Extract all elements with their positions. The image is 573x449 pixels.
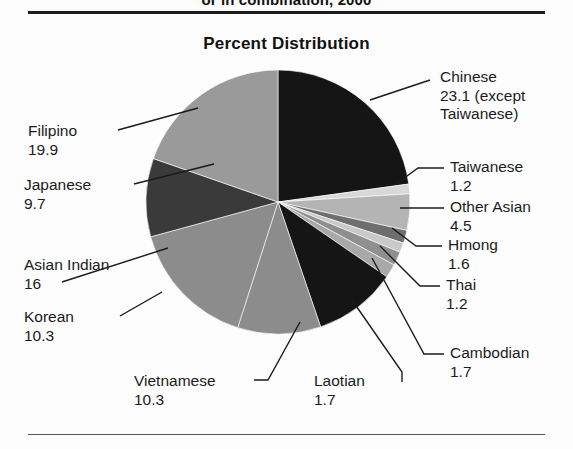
label-name-filipino: Filipino (28, 122, 77, 141)
label-value-hmong: 1.6 (448, 255, 498, 274)
label-value-laotian: 1.7 (314, 391, 365, 410)
slice-label-thai: Thai 1.2 (446, 276, 476, 313)
label-name-taiwanese: Taiwanese (450, 158, 523, 177)
pie-slice (278, 70, 409, 202)
slice-label-chinese: Chinese 23.1 (except Taiwanese) (440, 68, 525, 124)
label-name-other-asian: Other Asian (450, 198, 531, 217)
slice-label-cambodian: Cambodian 1.7 (450, 344, 529, 381)
figure-page: or in combination, 2000 Percent Distribu… (0, 0, 573, 449)
slice-label-korean: Korean 10.3 (24, 308, 74, 345)
leader-line-laotian (352, 300, 402, 382)
label-name-vietnamese: Vietnamese (134, 372, 216, 391)
label-name-japanese: Japanese (24, 176, 91, 195)
label-value-thai: 1.2 (446, 295, 476, 314)
label-value-cambodian: 1.7 (450, 363, 529, 382)
label-note-chinese: Taiwanese) (440, 105, 525, 124)
label-value-chinese: 23.1 (except (440, 87, 525, 106)
label-name-hmong: Hmong (448, 236, 498, 255)
label-value-other-asian: 4.5 (450, 217, 531, 236)
label-value-taiwanese: 1.2 (450, 177, 523, 196)
label-value-vietnamese: 10.3 (134, 391, 216, 410)
leader-line-chinese (370, 80, 430, 100)
label-value-japanese: 9.7 (24, 195, 91, 214)
label-name-cambodian: Cambodian (450, 344, 529, 363)
label-name-laotian: Laotian (314, 372, 365, 391)
slice-label-asian-indian: Asian Indian 16 (24, 256, 109, 293)
slice-label-taiwanese: Taiwanese 1.2 (450, 158, 523, 195)
bottom-divider-rule (28, 434, 545, 435)
slice-label-japanese: Japanese 9.7 (24, 176, 91, 213)
label-name-korean: Korean (24, 308, 74, 327)
label-value-filipino: 19.9 (28, 141, 77, 160)
slice-label-vietnamese: Vietnamese 10.3 (134, 372, 216, 409)
slice-label-laotian: Laotian 1.7 (314, 372, 365, 409)
label-value-korean: 10.3 (24, 327, 74, 346)
slice-label-filipino: Filipino 19.9 (28, 122, 77, 159)
label-name-asian-indian: Asian Indian (24, 256, 109, 275)
slice-label-hmong: Hmong 1.6 (448, 236, 498, 273)
label-name-thai: Thai (446, 276, 476, 295)
slice-label-other-asian: Other Asian 4.5 (450, 198, 531, 235)
label-value-asian-indian: 16 (24, 275, 109, 294)
pie-slice-group (146, 70, 410, 334)
leader-line-korean (120, 292, 162, 316)
label-name-chinese: Chinese (440, 68, 525, 87)
